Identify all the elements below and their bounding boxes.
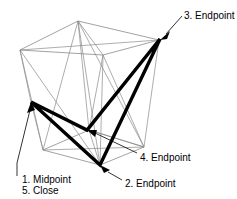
label-endpoint-4: 4. Endpoint [140, 152, 191, 163]
label-endpoint-3: 3. Endpoint [184, 10, 235, 21]
leader-line-3 [166, 16, 182, 34]
label-endpoint-2: 2. Endpoint [125, 178, 176, 189]
label-close-5: 5. Close [22, 185, 59, 196]
top-face-diagonal-a [20, 40, 159, 50]
box-top-face [20, 21, 159, 55]
leader-line-1 [17, 110, 30, 163]
box-edge-back [78, 21, 89, 130]
arrowhead-2-icon [100, 165, 110, 173]
arrowhead-3-icon [160, 31, 170, 40]
leader-line-2 [108, 172, 122, 180]
wireframe-figure: 3. Endpoint 4. Endpoint 1. Midpoint 5. C… [0, 0, 237, 199]
label-midpoint-1: 1. Midpoint [22, 174, 71, 185]
wireframe-box [20, 21, 159, 165]
figure-canvas [0, 0, 237, 199]
